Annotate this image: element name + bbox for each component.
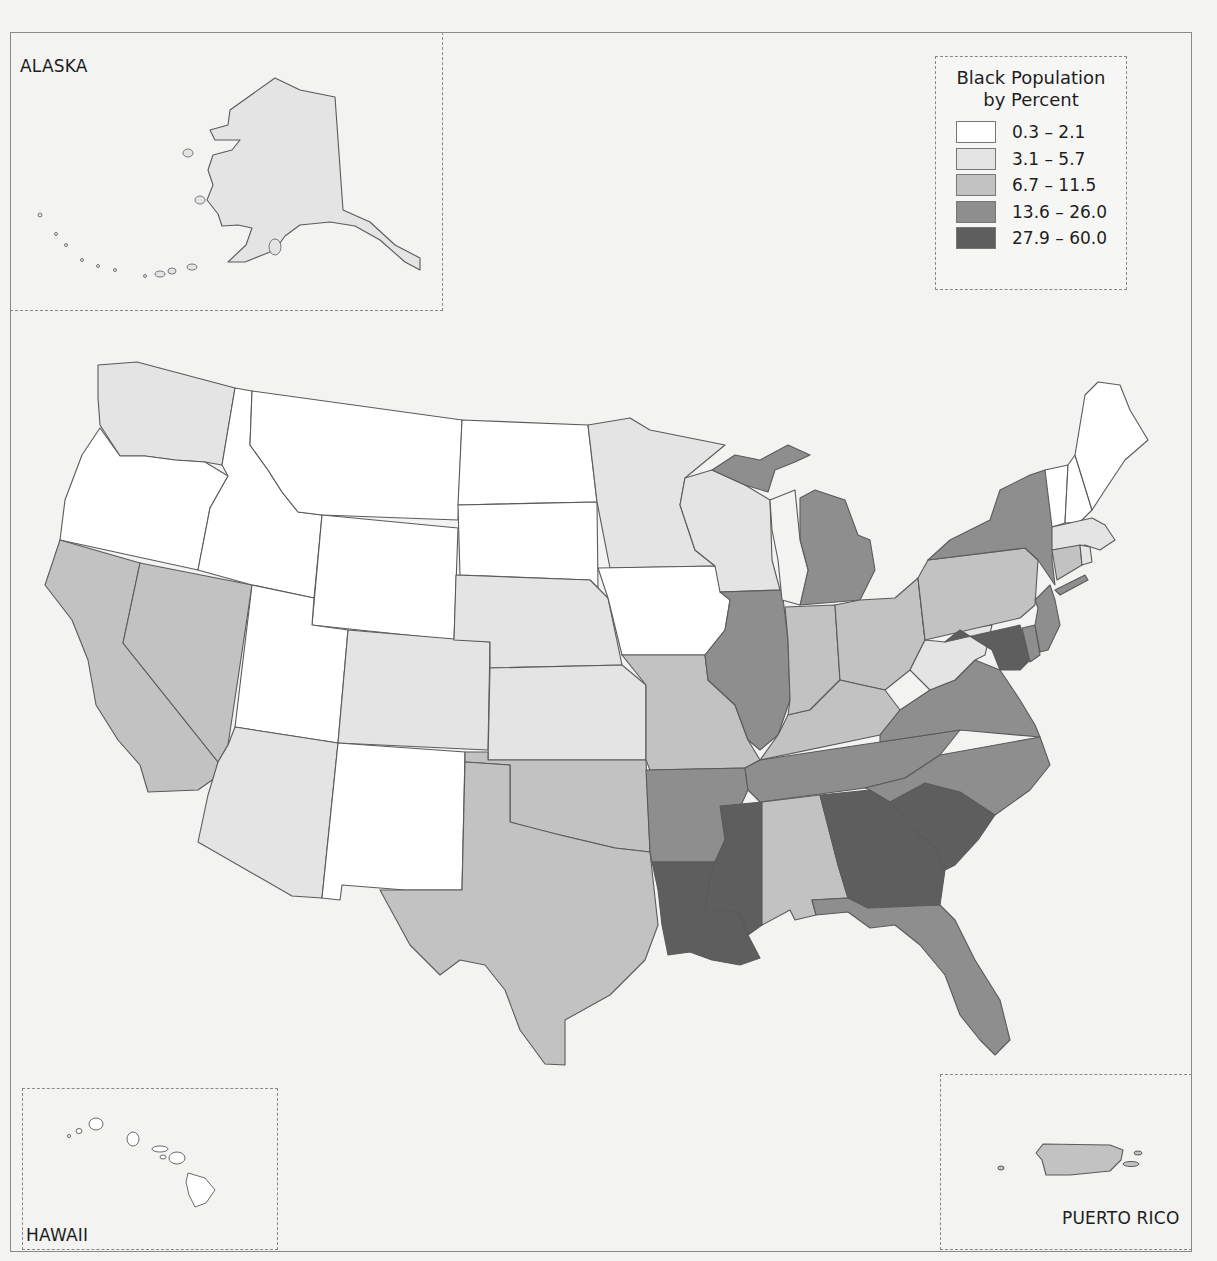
state-north-dakota	[458, 420, 597, 505]
legend-swatch-class3	[956, 174, 996, 196]
state-michigan-lower	[800, 490, 875, 605]
legend-item: 27.9 – 60.0	[956, 225, 1126, 252]
legend-title: Black Population by Percent	[936, 67, 1126, 111]
state-alaska	[207, 78, 420, 270]
legend-label: 0.3 – 2.1	[1012, 122, 1085, 142]
contiguous-states	[45, 362, 1148, 1065]
legend-swatch-class5	[956, 227, 996, 249]
legend-label: 27.9 – 60.0	[1012, 228, 1107, 248]
state-south-dakota	[458, 502, 598, 588]
state-hawaii	[68, 1118, 216, 1207]
legend: Black Population by Percent 0.3 – 2.1 3.…	[935, 56, 1127, 290]
state-iowa	[598, 566, 730, 655]
legend-items: 0.3 – 2.1 3.1 – 5.7 6.7 – 11.5 13.6 – 26…	[936, 119, 1126, 252]
state-maine	[1075, 382, 1148, 510]
state-connecticut	[1052, 545, 1082, 580]
state-washington	[98, 362, 235, 465]
legend-swatch-class4	[956, 201, 996, 223]
legend-title-line1: Black Population	[936, 67, 1126, 89]
state-rhode-island	[1080, 545, 1092, 565]
legend-item: 6.7 – 11.5	[956, 172, 1126, 199]
legend-swatch-class1	[956, 121, 996, 143]
legend-label: 3.1 – 5.7	[1012, 149, 1085, 169]
territory-puerto-rico	[998, 1144, 1142, 1175]
state-kansas	[488, 665, 646, 760]
legend-title-line2: by Percent	[936, 89, 1126, 111]
legend-label: 13.6 – 26.0	[1012, 202, 1107, 222]
legend-item: 0.3 – 2.1	[956, 119, 1126, 146]
state-wyoming	[312, 515, 458, 640]
state-florida	[812, 898, 1010, 1055]
legend-item: 3.1 – 5.7	[956, 146, 1126, 173]
legend-swatch-class2	[956, 148, 996, 170]
state-colorado	[338, 630, 490, 750]
state-new-mexico	[322, 743, 465, 900]
legend-item: 13.6 – 26.0	[956, 199, 1126, 226]
state-new-jersey	[1035, 585, 1060, 652]
legend-label: 6.7 – 11.5	[1012, 175, 1096, 195]
